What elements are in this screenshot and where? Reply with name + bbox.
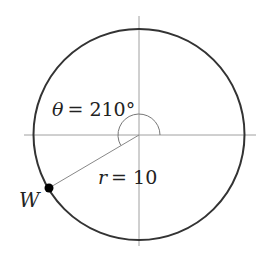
angle-label: θ= 210° [52, 98, 135, 120]
radius-label: r= 10 [98, 166, 157, 188]
point-label: W [19, 188, 41, 212]
point-w [45, 184, 54, 193]
circle-diagram: θ= 210° r= 10 W [0, 0, 269, 254]
